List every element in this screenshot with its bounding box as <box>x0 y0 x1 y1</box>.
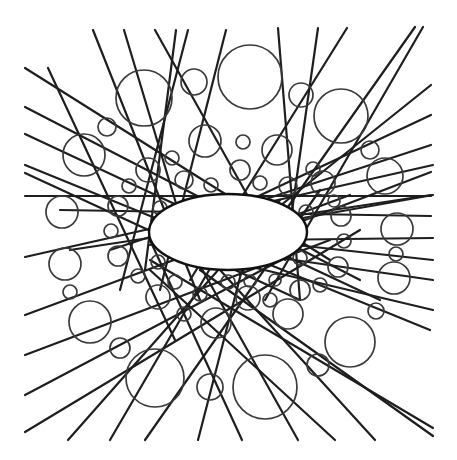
inscribed-circle <box>175 171 193 189</box>
inscribed-circle <box>337 234 351 248</box>
inscribed-circle <box>236 135 250 149</box>
inscribed-circle <box>218 45 282 109</box>
tangent-line <box>155 30 250 200</box>
inscribed-circle <box>389 247 403 261</box>
inscribed-circle <box>104 224 118 238</box>
tangent-line <box>200 270 433 436</box>
central-ellipse <box>149 194 307 270</box>
tangent-lines-figure <box>0 0 457 460</box>
inscribed-circle <box>63 285 77 299</box>
inscribed-circle <box>69 301 111 343</box>
inscribed-circle <box>325 317 375 367</box>
inscribed-circle <box>314 89 368 143</box>
inscribed-circle <box>273 299 303 329</box>
inscribed-circle <box>126 349 184 407</box>
inscribed-circle <box>381 213 413 245</box>
inscribed-circle <box>233 355 297 419</box>
inscribed-circle <box>253 176 267 190</box>
inscribed-circle <box>108 246 128 266</box>
tangent-line <box>25 250 300 395</box>
figure-canvas <box>0 0 457 460</box>
inscribed-circle <box>46 196 78 228</box>
inscribed-circle <box>378 262 410 294</box>
inscribed-circle <box>49 248 81 280</box>
